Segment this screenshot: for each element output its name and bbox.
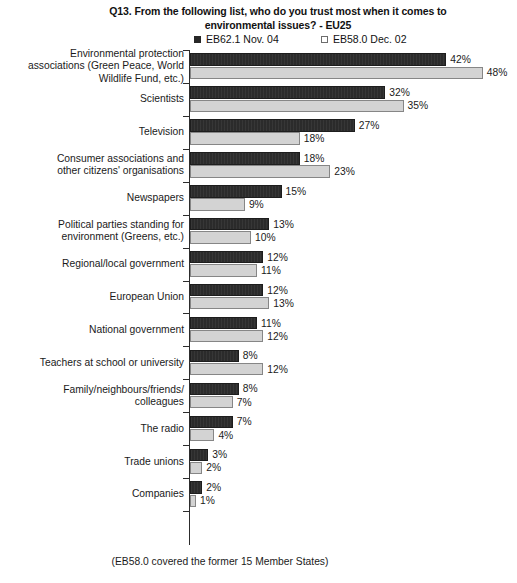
- category-label-line: Newspapers: [127, 192, 184, 204]
- bar-group: 42%48%: [190, 50, 517, 83]
- chart-category-row: Companies2%1%: [0, 478, 517, 511]
- chart-category-row: Teachers at school or university8%12%: [0, 346, 517, 379]
- bar-value-label: 8%: [243, 350, 258, 361]
- bar-item: 12%: [190, 330, 288, 342]
- bar-eb58: [190, 396, 233, 408]
- category-tick: [183, 116, 190, 117]
- bar-eb62: [190, 416, 233, 428]
- bar-eb62: [190, 152, 300, 164]
- bar-group: 15%9%: [190, 182, 517, 215]
- bar-group: 12%11%: [190, 248, 517, 281]
- chart-category-row: Family/neighbours/friends/colleagues8%7%: [0, 379, 517, 412]
- category-label: European Union: [8, 281, 184, 314]
- category-label: Newspapers: [8, 182, 184, 215]
- category-tick: [183, 313, 190, 314]
- bar-group: 3%2%: [190, 445, 517, 478]
- bar-eb62: [190, 350, 239, 362]
- bar-eb58: [190, 297, 269, 309]
- bar-group: 32%35%: [190, 83, 517, 116]
- bar-group: 2%1%: [190, 478, 517, 511]
- bar-group: 27%18%: [190, 116, 517, 149]
- bar-value-label: 42%: [450, 54, 471, 65]
- chart-category-row: Regional/local government12%11%: [0, 248, 517, 281]
- bar-item: 7%: [190, 396, 252, 408]
- bar-item: 11%: [190, 264, 281, 276]
- bar-eb62: [190, 449, 208, 461]
- category-label-line: Regional/local government: [62, 258, 184, 270]
- bar-value-label: 2%: [206, 462, 221, 473]
- category-label-line: Family/neighbours/friends/: [63, 384, 184, 396]
- bar-value-label: 11%: [261, 265, 281, 276]
- bar-value-label: 7%: [237, 397, 252, 408]
- bar-value-label: 32%: [389, 87, 410, 98]
- bar-item: 4%: [190, 429, 233, 441]
- bar-value-label: 12%: [267, 364, 288, 375]
- category-tick: [183, 412, 190, 413]
- category-label-line: environment (Greens, etc.): [62, 231, 184, 243]
- bar-value-label: 12%: [267, 252, 288, 263]
- bar-item: 12%: [190, 363, 288, 375]
- bar-item: 12%: [190, 284, 288, 296]
- bar-item: 3%: [190, 449, 227, 461]
- category-tick: [183, 215, 190, 216]
- category-label: Trade unions: [8, 445, 184, 478]
- bar-item: 9%: [190, 198, 264, 210]
- bar-item: 48%: [190, 67, 507, 79]
- chart-category-row: National government11%12%: [0, 313, 517, 346]
- bar-item: 2%: [190, 462, 221, 474]
- chart-figure: Q13. From the following list, who do you…: [0, 0, 517, 583]
- chart-category-row: Political parties standing forenvironmen…: [0, 215, 517, 248]
- category-label: Companies: [8, 478, 184, 511]
- bar-value-label: 13%: [273, 219, 294, 230]
- bar-value-label: 10%: [255, 232, 276, 243]
- bar-eb58: [190, 100, 404, 112]
- category-label: Consumer associations andother citizens'…: [8, 149, 184, 182]
- bar-item: 13%: [190, 218, 294, 230]
- category-label-line: Trade unions: [124, 456, 184, 468]
- bar-group: 8%7%: [190, 379, 517, 412]
- bar-value-label: 18%: [304, 153, 325, 164]
- bar-group: 11%12%: [190, 313, 517, 346]
- category-label-line: colleagues: [135, 396, 184, 408]
- chart-category-row: Consumer associations andother citizens'…: [0, 149, 517, 182]
- category-label: Teachers at school or university: [8, 346, 184, 379]
- chart-legend: EB62.1 Nov. 04EB58.0 Dec. 02: [190, 32, 490, 46]
- bar-item: 2%: [190, 481, 221, 493]
- bar-item: 8%: [190, 383, 258, 395]
- bar-eb62: [190, 185, 282, 197]
- category-tick: [183, 379, 190, 380]
- category-label-line: The radio: [140, 423, 184, 435]
- bar-eb58: [190, 429, 214, 441]
- bar-value-label: 23%: [334, 166, 355, 177]
- bar-value-label: 7%: [237, 416, 252, 427]
- bar-eb62: [190, 86, 385, 98]
- category-label: Regional/local government: [8, 248, 184, 281]
- category-label-line: Television: [139, 126, 184, 138]
- category-tick: [183, 281, 190, 282]
- bar-item: 10%: [190, 231, 276, 243]
- bar-value-label: 18%: [304, 133, 325, 144]
- bar-value-label: 2%: [206, 482, 221, 493]
- bar-item: 23%: [190, 165, 355, 177]
- category-label: The radio: [8, 412, 184, 445]
- bar-value-label: 13%: [273, 298, 294, 309]
- bar-item: 12%: [190, 251, 288, 263]
- bar-eb62: [190, 218, 269, 230]
- bar-value-label: 9%: [249, 199, 264, 210]
- category-label-line: National government: [89, 324, 184, 336]
- bar-eb58: [190, 67, 483, 79]
- chart-category-row: Scientists32%35%: [0, 83, 517, 116]
- bar-item: 15%: [190, 185, 306, 197]
- category-label: Scientists: [8, 83, 184, 116]
- chart-category-row: The radio7%4%: [0, 412, 517, 445]
- bar-eb58: [190, 462, 202, 474]
- bar-eb58: [190, 132, 300, 144]
- category-tick: [183, 182, 190, 183]
- legend-swatch-icon-1: [321, 36, 328, 43]
- bar-value-label: 4%: [218, 430, 233, 441]
- category-tick: [183, 149, 190, 150]
- bar-eb62: [190, 383, 239, 395]
- bar-value-label: 12%: [267, 331, 288, 342]
- chart-category-row: Trade unions3%2%: [0, 445, 517, 478]
- bar-item: 27%: [190, 119, 379, 131]
